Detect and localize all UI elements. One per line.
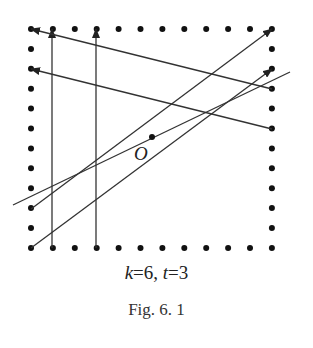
t-value: =3 — [168, 262, 188, 283]
grid-dot — [50, 245, 56, 251]
grid-dot — [159, 26, 165, 32]
grid-diagram: O — [0, 0, 313, 260]
caption-parameters: k=6, t=3 — [0, 262, 313, 284]
point-o — [149, 134, 155, 140]
grid-dot — [247, 245, 253, 251]
grid-dot — [28, 86, 34, 92]
grid-dot — [269, 245, 275, 251]
point-label-o: O — [134, 143, 148, 164]
grid-dot — [203, 245, 209, 251]
grid-dot — [28, 66, 34, 72]
grid-dot — [28, 145, 34, 151]
arrow-line-leftward — [31, 29, 272, 89]
grid-dot — [203, 26, 209, 32]
grid-dot — [94, 245, 100, 251]
grid-dot — [225, 245, 231, 251]
grid-dot — [28, 185, 34, 191]
grid-dot — [72, 26, 78, 32]
grid-dot — [28, 46, 34, 52]
grid-dot — [28, 165, 34, 171]
grid-dot — [116, 245, 122, 251]
k-symbol: k — [125, 262, 133, 283]
grid-dot — [247, 26, 253, 32]
grid-dot — [28, 126, 34, 132]
arrow-line-leftward — [31, 69, 272, 129]
grid-dot — [225, 26, 231, 32]
grid-dot — [159, 245, 165, 251]
grid-dot — [28, 225, 34, 231]
grid-dot — [116, 26, 122, 32]
grid-dot — [50, 26, 56, 32]
grid-dot — [72, 245, 78, 251]
grid-dot — [269, 165, 275, 171]
k-value: =6, — [133, 262, 163, 283]
grid-dot — [269, 46, 275, 52]
grid-dot — [269, 145, 275, 151]
grid-dot — [269, 225, 275, 231]
grid-dot — [138, 245, 144, 251]
grid-dot — [269, 106, 275, 112]
arrow-line-diagonal — [31, 69, 272, 248]
center-point — [149, 134, 155, 140]
grid-dot — [94, 26, 100, 32]
arrow-line-diagonal — [31, 29, 272, 209]
grid-dot — [138, 26, 144, 32]
grid-dot — [269, 205, 275, 211]
grid-dot — [28, 106, 34, 112]
grid-dot — [269, 185, 275, 191]
grid-dot — [181, 26, 187, 32]
grid-dot — [181, 245, 187, 251]
figure-label: Fig. 6. 1 — [0, 300, 313, 320]
